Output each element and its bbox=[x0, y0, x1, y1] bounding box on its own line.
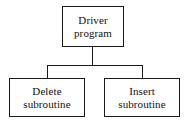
connector-horizontal-bus bbox=[47, 65, 143, 66]
node-driver-program[interactable]: Driver program bbox=[62, 6, 124, 47]
node-insert-subroutine-line1: Insert bbox=[129, 85, 155, 98]
node-driver-program-line1: Driver bbox=[78, 14, 107, 27]
connector-right-drop bbox=[142, 65, 143, 78]
node-delete-subroutine-line1: Delete bbox=[32, 85, 61, 98]
node-insert-subroutine[interactable]: Insert subroutine bbox=[104, 78, 180, 117]
node-delete-subroutine[interactable]: Delete subroutine bbox=[9, 78, 85, 117]
node-driver-program-line2: program bbox=[74, 27, 112, 40]
connector-left-drop bbox=[47, 65, 48, 78]
connector-root-stem bbox=[92, 47, 93, 66]
node-insert-subroutine-line2: subroutine bbox=[118, 98, 165, 111]
hierarchy-diagram: Driver program Delete subroutine Insert … bbox=[0, 0, 190, 124]
node-delete-subroutine-line2: subroutine bbox=[23, 98, 70, 111]
